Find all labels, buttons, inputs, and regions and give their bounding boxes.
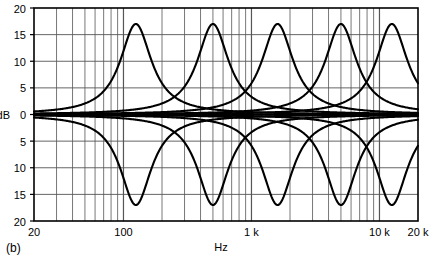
x-axis-title: Hz — [214, 241, 227, 253]
frequency-response-chart: 201510505101520dB201001 k10 k20 kHz(b) — [0, 0, 437, 261]
x-tick-label: 1 k — [244, 226, 259, 238]
y-tick-label: 20 — [14, 3, 26, 15]
y-tick-label: 0 — [20, 109, 26, 121]
x-tick-label: 100 — [114, 226, 132, 238]
y-axis-title: dB — [0, 109, 10, 121]
y-tick-label: 10 — [14, 162, 26, 174]
equalizer-response-figure: 201510505101520dB201001 k10 k20 kHz(b) — [0, 0, 437, 261]
x-tick-label: 20 k — [408, 226, 429, 238]
figure-caption: (b) — [6, 241, 21, 255]
y-tick-label: 5 — [20, 136, 26, 148]
y-tick-label: 10 — [14, 56, 26, 68]
x-tick-label: 10 k — [369, 226, 390, 238]
y-tick-label: 15 — [14, 189, 26, 201]
y-tick-label: 5 — [20, 82, 26, 94]
y-tick-label: 20 — [14, 216, 26, 228]
y-tick-label: 15 — [14, 29, 26, 41]
x-tick-label: 20 — [28, 226, 40, 238]
